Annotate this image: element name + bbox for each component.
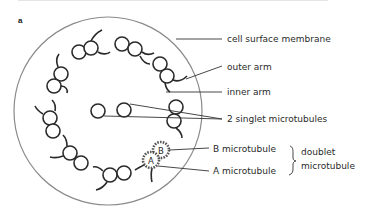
label-a-microtubule: A microtubule bbox=[213, 166, 276, 176]
label-inner-arm: inner arm bbox=[227, 87, 271, 97]
cilium-cross-section-diagram: a bbox=[0, 0, 365, 211]
brace bbox=[289, 146, 296, 175]
panel-letter: a bbox=[18, 16, 23, 25]
labelled-doublet: B A bbox=[135, 142, 169, 182]
a-letter: A bbox=[148, 156, 154, 166]
doublet-1 bbox=[72, 30, 110, 59]
singlet-microtubule-left bbox=[91, 104, 105, 118]
doublet-3 bbox=[153, 57, 187, 92]
singlet-microtubule-right bbox=[117, 103, 131, 117]
label-singlet-microtubules: 2 singlet microtubules bbox=[227, 114, 328, 124]
label-b-microtubule: B microtubule bbox=[213, 144, 276, 154]
b-letter: B bbox=[158, 146, 164, 156]
doublet-8 bbox=[93, 166, 131, 190]
label-cell-surface-membrane: cell surface membrane bbox=[227, 34, 331, 44]
doublet-6 bbox=[35, 100, 60, 138]
doublet-2 bbox=[115, 37, 154, 64]
doublet-7 bbox=[50, 135, 88, 170]
label-doublet: doublet bbox=[301, 147, 336, 157]
label-doublet-microtubule: microtubule bbox=[301, 161, 355, 171]
label-outer-arm: outer arm bbox=[227, 62, 272, 72]
doublet-4 bbox=[167, 100, 183, 138]
doublet-5 bbox=[47, 54, 68, 93]
